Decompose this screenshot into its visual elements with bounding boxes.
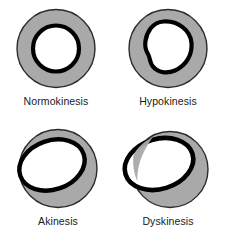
normokinesis-diagram [0,2,112,98]
akinesis-diagram [2,122,114,218]
panel-akinesis: Akinesis [2,122,114,243]
panel-normokinesis: Normokinesis [0,2,112,123]
hypokinesis-diagram [112,2,224,98]
wall-motion-figure: Normokinesis Hypokinesis Akinesis [0,0,225,243]
dyskinesis-diagram [112,122,224,218]
panel-label-dyskinesis: Dyskinesis [112,215,224,228]
panel-hypokinesis: Hypokinesis [112,2,224,123]
panel-label-normokinesis: Normokinesis [0,95,112,108]
panel-label-hypokinesis: Hypokinesis [112,95,224,108]
panel-dyskinesis: Dyskinesis [112,122,224,243]
endocardium-outline [33,26,79,72]
panel-label-akinesis: Akinesis [2,215,114,228]
endocardium-outline [145,21,191,72]
